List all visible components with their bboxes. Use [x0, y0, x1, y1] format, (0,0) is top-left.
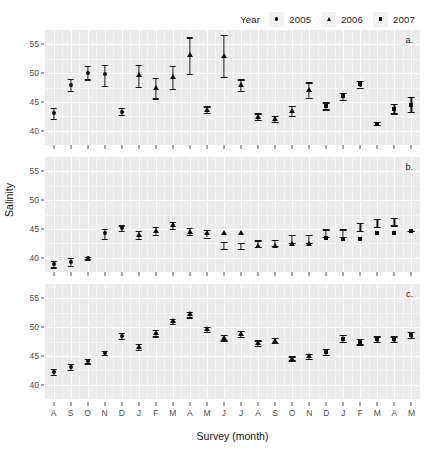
gridline-minor-x	[79, 284, 80, 399]
gridline-minor-x	[403, 157, 404, 272]
error-bar-cap-bottom	[101, 86, 108, 87]
gridline-minor-x	[386, 30, 387, 145]
triangle-marker-icon	[170, 318, 176, 323]
x-tick-mark	[121, 402, 122, 406]
triangle-marker-icon	[204, 230, 210, 235]
triangle-marker-icon	[221, 53, 227, 58]
x-tick-mark	[377, 145, 378, 149]
square-marker-icon	[358, 340, 362, 344]
x-tick-mark	[360, 272, 361, 276]
gridline-minor-x	[284, 284, 285, 399]
square-marker-icon	[341, 94, 345, 98]
x-tick-mark	[53, 272, 54, 276]
x-tick-mark	[70, 402, 71, 406]
gridline-minor-x	[369, 284, 370, 399]
y-tick-label: 50	[30, 322, 39, 332]
gridline-minor-x	[164, 30, 165, 145]
x-tick-mark	[258, 402, 259, 406]
x-tick-mark	[258, 272, 259, 276]
triangle-marker-icon	[221, 335, 227, 340]
x-tick-mark	[189, 145, 190, 149]
gridline-minor-x	[96, 284, 97, 399]
square-marker-icon	[409, 333, 413, 337]
y-tick-label: 50	[30, 68, 39, 78]
triangle-marker-icon	[204, 107, 210, 112]
error-bar-cap-top	[374, 219, 381, 220]
y-tick-label: 55	[30, 166, 39, 176]
x-tick-label: J	[222, 408, 226, 418]
panel-c-plot-area	[45, 284, 420, 399]
gridline-major-x	[309, 157, 310, 272]
y-tick-label: 40	[30, 253, 39, 263]
error-bar-cap-bottom	[391, 342, 398, 343]
error-bar-cap-bottom	[118, 115, 125, 116]
gridline-major-x	[207, 30, 208, 145]
gridline-major-x	[292, 284, 293, 399]
error-bar-cap-bottom	[238, 91, 245, 92]
error-bar-cap-bottom	[272, 343, 279, 344]
y-tick-mark	[41, 355, 44, 356]
triangle-marker-icon	[272, 116, 278, 121]
gridline-minor-x	[352, 284, 353, 399]
error-bar-cap-top	[289, 106, 296, 107]
gridline-major-x	[139, 284, 140, 399]
gridline-minor-x	[113, 157, 114, 272]
x-tick-mark	[206, 145, 207, 149]
gridline-minor-x	[335, 284, 336, 399]
x-tick-mark	[411, 402, 412, 406]
gridline-minor-x	[318, 30, 319, 145]
x-tick-label: M	[169, 408, 176, 418]
error-bar-cap-bottom	[170, 89, 177, 90]
gridline-minor-x	[369, 157, 370, 272]
gridline-minor-x	[96, 30, 97, 145]
triangle-marker-icon	[272, 243, 278, 248]
y-tick-mark	[41, 200, 44, 201]
panel-a-tag: a.	[405, 35, 413, 45]
x-tick-mark	[104, 402, 105, 406]
panel-b-plot-area	[45, 157, 420, 272]
y-tick-label: 50	[30, 195, 39, 205]
y-tick-mark	[41, 384, 44, 385]
square-marker-icon	[375, 337, 379, 341]
triangle-marker-icon	[170, 222, 176, 227]
x-tick-mark	[104, 272, 105, 276]
error-bar-cap-top	[67, 79, 74, 80]
error-bar-cap-bottom	[221, 77, 228, 78]
gridline-minor-x	[62, 284, 63, 399]
gridline-minor-x	[250, 30, 251, 145]
error-bar-cap-bottom	[84, 79, 91, 80]
gridline-minor-x	[79, 30, 80, 145]
triangle-marker-icon	[204, 326, 210, 331]
x-tick-label: M	[408, 408, 415, 418]
gridline-minor-x	[250, 284, 251, 399]
square-marker-icon	[324, 350, 328, 354]
x-tick-mark	[87, 145, 88, 149]
panel-b: b. 40455055	[45, 157, 420, 272]
gridline-minor-x	[335, 157, 336, 272]
x-tick-mark	[53, 402, 54, 406]
x-axis-title: Survey (month)	[45, 430, 420, 442]
x-tick-mark	[326, 272, 327, 276]
error-bar-cap-bottom	[357, 88, 364, 89]
gridline-major-x	[207, 284, 208, 399]
gridline-minor-x	[198, 284, 199, 399]
error-bar-cap-top	[391, 218, 398, 219]
error-bar-cap-bottom	[152, 235, 159, 236]
error-bar-cap-bottom	[118, 339, 125, 340]
gridline-major-x	[190, 284, 191, 399]
gridline-minor-x	[352, 157, 353, 272]
triangle-marker-icon	[289, 108, 295, 113]
error-bar-cap-bottom	[374, 342, 381, 343]
legend-entry-2005: 2005	[269, 12, 311, 27]
gridline-major-x	[343, 157, 344, 272]
x-tick-mark	[241, 145, 242, 149]
error-bar-cap-bottom	[101, 239, 108, 240]
x-tick-label: S	[272, 408, 278, 418]
x-tick-mark	[394, 272, 395, 276]
triangle-marker-icon	[136, 72, 142, 77]
x-tick-mark	[292, 145, 293, 149]
triangle-marker-icon	[153, 330, 159, 335]
error-bar-cap-top	[323, 229, 330, 230]
gridline-minor-x	[147, 284, 148, 399]
x-tick-label: O	[84, 408, 91, 418]
